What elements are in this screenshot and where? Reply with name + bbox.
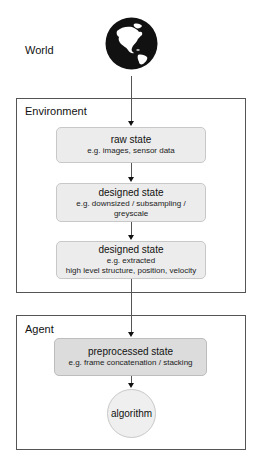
- designed-state-box-2: designed state e.g. extracted high level…: [56, 241, 206, 279]
- designed-state-box-1: designed state e.g. downsized / subsampl…: [56, 183, 206, 222]
- state-subtitle: high level structure, position, velocity: [66, 266, 196, 276]
- world-label: World: [25, 44, 54, 56]
- state-title: preprocessed state: [88, 346, 173, 358]
- state-title: raw state: [111, 134, 152, 146]
- arrow-down-icon: [128, 235, 134, 240]
- state-subtitle: e.g. extracted: [107, 256, 155, 266]
- arrow-down-icon: [128, 177, 134, 182]
- state-title: designed state: [98, 187, 163, 199]
- algorithm-label: algorithm: [111, 408, 152, 419]
- agent-label: Agent: [25, 323, 54, 335]
- algorithm-node: algorithm: [107, 389, 156, 438]
- arrow-down-icon: [128, 383, 134, 388]
- globe-icon: [105, 17, 158, 70]
- connector-line: [131, 163, 132, 178]
- arrow-down-icon: [128, 332, 134, 337]
- preprocessed-state-box: preprocessed state e.g. frame concatenat…: [54, 338, 207, 376]
- connector-line: [131, 222, 132, 236]
- state-subtitle: e.g. images, sensor data: [87, 146, 175, 156]
- state-subtitle: e.g. downsized / subsampling /: [76, 199, 185, 209]
- connector-line: [131, 76, 132, 98]
- arrow-down-icon: [128, 121, 134, 126]
- connector-line: [131, 98, 132, 122]
- raw-state-box: raw state e.g. images, sensor data: [56, 127, 206, 163]
- state-title: designed state: [98, 244, 163, 256]
- state-subtitle: e.g. frame concatenation / stacking: [68, 358, 192, 368]
- environment-label: Environment: [25, 105, 87, 117]
- state-subtitle: greyscale: [114, 209, 148, 219]
